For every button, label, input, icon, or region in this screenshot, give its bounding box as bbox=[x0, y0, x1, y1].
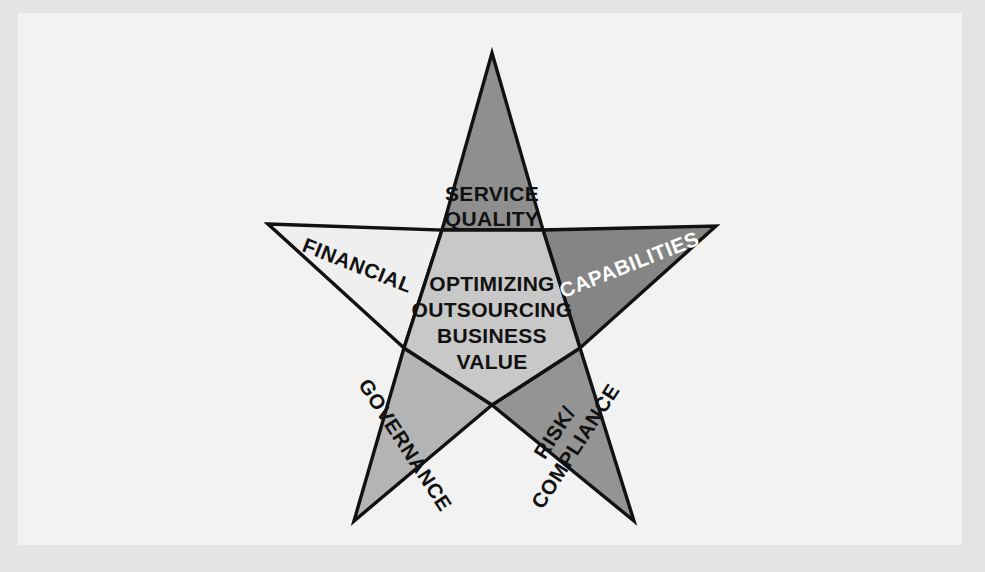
center-label-line1: OPTIMIZING bbox=[429, 272, 555, 295]
label-service-quality-line1: SERVICE bbox=[445, 182, 539, 205]
center-label-line4: VALUE bbox=[456, 350, 527, 373]
screenshot-stage: SERVICE QUALITY FINANCIAL CAPABILITIES G… bbox=[0, 0, 985, 572]
label-service-quality-line2: QUALITY bbox=[445, 207, 539, 230]
star-diagram: SERVICE QUALITY FINANCIAL CAPABILITIES G… bbox=[0, 0, 985, 572]
center-label-line2: OUTSOURCING bbox=[412, 298, 573, 321]
center-label-line3: BUSINESS bbox=[437, 324, 547, 347]
